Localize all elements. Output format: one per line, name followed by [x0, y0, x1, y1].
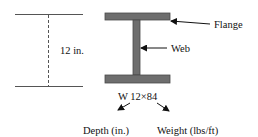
- weight-caption: Weight (lbs/ft): [157, 125, 219, 137]
- designation-label: W 12×84: [118, 91, 158, 102]
- flange-label: Flange: [214, 19, 243, 30]
- bottom-flange: [105, 75, 170, 83]
- web-label: Web: [171, 43, 190, 54]
- depth-dimension-label: 12 in.: [60, 45, 84, 56]
- depth-caption: Depth (in.): [83, 125, 130, 137]
- i-beam-diagram: 12 in. Flange Web W 12×84 Depth (in.) We…: [0, 0, 258, 137]
- flange-arrow-icon: [171, 21, 210, 24]
- top-flange: [105, 13, 170, 20]
- depth-arrow-icon: [118, 103, 130, 110]
- web: [133, 20, 140, 75]
- weight-arrow-icon: [157, 103, 169, 111]
